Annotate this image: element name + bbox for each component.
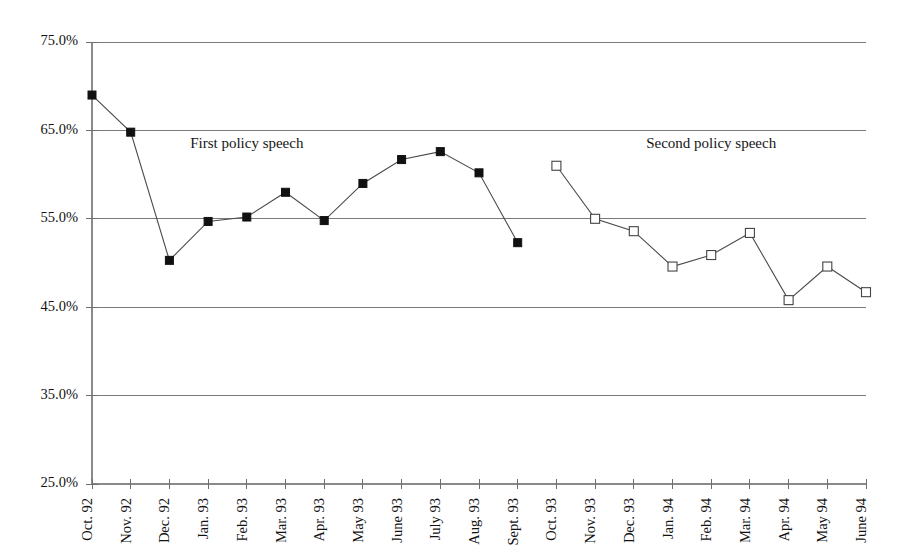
line-chart: 75.0%65.0%55.0%45.0%35.0%25.0% Oct. 92No… (0, 0, 908, 559)
data-point-marker (165, 256, 173, 264)
data-point-marker (862, 288, 871, 297)
x-tick-label: Mar. 94 (737, 497, 753, 543)
data-point-marker (745, 228, 754, 237)
data-point-marker (668, 262, 677, 271)
series-markers (88, 91, 871, 305)
x-tick-label: Oct. 93 (543, 498, 559, 541)
data-point-marker (629, 227, 638, 236)
x-tick-label: Mar. 93 (273, 498, 289, 543)
y-tick-label: 25.0% (41, 474, 78, 490)
y-tick-labels: 75.0%65.0%55.0%45.0%35.0%25.0% (41, 32, 98, 490)
data-point-marker (359, 179, 367, 187)
x-tick-label: May 93 (350, 498, 366, 543)
y-tick-label: 75.0% (41, 32, 78, 48)
y-tick-label: 35.0% (41, 386, 78, 402)
series-line-2 (556, 166, 866, 300)
x-tick-label: Apr. 94 (776, 497, 792, 541)
series-lines (92, 95, 866, 300)
data-point-marker (823, 262, 832, 271)
data-point-marker (707, 251, 716, 260)
x-tick-label: June 94 (853, 497, 869, 542)
x-tick-label: Nov. 92 (118, 498, 134, 544)
data-point-marker (475, 169, 483, 177)
x-tick-label: May 94 (814, 497, 830, 542)
x-tick-label: Nov. 93 (582, 498, 598, 544)
data-point-marker (784, 296, 793, 305)
data-point-marker (127, 128, 135, 136)
x-tick-labels: Oct. 92Nov. 92Dec. 92Jan. 93Feb. 93Mar. … (79, 497, 869, 545)
data-point-marker (282, 188, 290, 196)
data-point-marker (436, 148, 444, 156)
chart-annotations: First policy speechSecond policy speech (190, 135, 777, 151)
data-point-marker (552, 161, 561, 170)
x-axis (92, 479, 866, 489)
data-point-marker (88, 91, 96, 99)
x-tick-label: Oct. 92 (79, 498, 95, 541)
data-point-marker (320, 217, 328, 225)
x-tick-label: Feb. 93 (234, 498, 250, 542)
x-tick-label: Dec. 93 (621, 498, 637, 543)
y-tick-label: 55.0% (41, 209, 78, 225)
annotation-label-1: First policy speech (190, 135, 304, 151)
x-tick-label: Jan. 94 (660, 497, 676, 539)
data-point-marker (591, 214, 600, 223)
x-tick-label: July 93 (427, 498, 443, 540)
y-tick-label: 65.0% (41, 121, 78, 137)
series-line-1 (92, 95, 518, 260)
x-tick-label: Apr. 93 (311, 498, 327, 542)
chart-canvas: 75.0%65.0%55.0%45.0%35.0%25.0% Oct. 92No… (0, 0, 908, 559)
y-tick-label: 45.0% (41, 298, 78, 314)
data-point-marker (398, 156, 406, 164)
x-tick-label: June 93 (389, 498, 405, 543)
x-tick-label: Sept. 93 (505, 498, 521, 546)
x-tick-label: Aug. 93 (466, 498, 482, 545)
data-point-marker (204, 217, 212, 225)
x-tick-label: Feb. 94 (698, 497, 714, 541)
data-point-marker (514, 239, 522, 247)
data-point-marker (243, 213, 251, 221)
x-tick-label: Dec. 92 (156, 498, 172, 543)
x-tick-label: Jan. 93 (195, 498, 211, 539)
annotation-label-2: Second policy speech (646, 135, 776, 151)
